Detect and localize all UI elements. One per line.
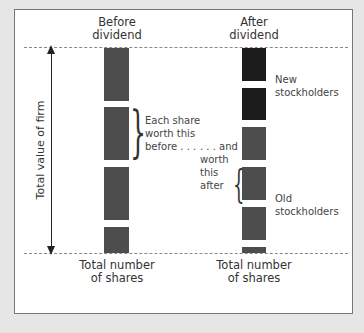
before-brace-icon: } bbox=[130, 104, 146, 160]
bottom-dashed-line bbox=[24, 253, 348, 254]
before-title: Before dividend bbox=[82, 16, 152, 42]
top-dashed-line bbox=[24, 47, 348, 48]
old-label-line1: Old bbox=[275, 192, 339, 205]
arrow-down-icon bbox=[47, 246, 55, 255]
new-stockholders-label: New stockholders bbox=[275, 73, 339, 99]
before-annotation-line1: Each share bbox=[145, 114, 200, 127]
after-old-share-bar bbox=[242, 167, 266, 200]
old-stockholders-label: Old stockholders bbox=[275, 192, 339, 218]
after-annotation-line1: . . . and bbox=[200, 140, 238, 153]
old-label-line2: stockholders bbox=[275, 205, 339, 218]
before-annotation-line3: before . . . bbox=[145, 140, 200, 153]
diagram-panel bbox=[14, 9, 353, 314]
after-title-line2: dividend bbox=[219, 29, 289, 42]
after-title: After dividend bbox=[219, 16, 289, 42]
before-share-bar bbox=[104, 107, 129, 160]
after-bottom-label: Total number of shares bbox=[209, 259, 299, 285]
axis-label: Total value of firm bbox=[34, 101, 47, 200]
after-new-share-bar bbox=[242, 88, 266, 120]
after-bottom-line2: of shares bbox=[209, 272, 299, 285]
after-old-share-bar bbox=[242, 207, 266, 240]
after-old-share-bar bbox=[242, 127, 266, 160]
arrow-up-icon bbox=[47, 45, 55, 54]
after-old-share-bar bbox=[242, 247, 266, 253]
before-annotation: Each share worth this before . . . bbox=[145, 114, 200, 153]
new-label-line2: stockholders bbox=[275, 86, 339, 99]
total-value-axis bbox=[51, 52, 52, 248]
before-title-line2: dividend bbox=[82, 29, 152, 42]
before-share-bar bbox=[104, 227, 129, 253]
new-label-line1: New bbox=[275, 73, 339, 86]
after-new-share-bar bbox=[242, 48, 266, 81]
before-bottom-label: Total number of shares bbox=[72, 259, 162, 285]
before-annotation-line2: worth this bbox=[145, 127, 200, 140]
after-brace-icon: { bbox=[233, 163, 244, 203]
before-share-bar bbox=[104, 167, 129, 220]
before-bottom-line2: of shares bbox=[72, 272, 162, 285]
before-share-bar bbox=[104, 48, 129, 101]
